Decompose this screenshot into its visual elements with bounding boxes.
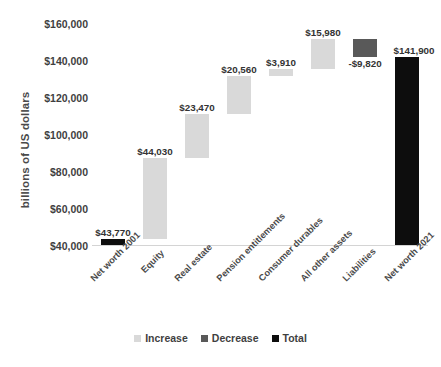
bar-equity[interactable] [143, 158, 167, 239]
bar-value-label: $20,560 [221, 64, 256, 75]
waterfall-chart: billions of US dollars $40,000$60,000$80… [0, 0, 441, 367]
x-tick-pension-entitlements: Pension entitlements [215, 248, 250, 283]
bar-real-estate[interactable] [185, 114, 209, 157]
x-tick-equity: Equity [131, 248, 166, 283]
bar-value-label: $3,910 [266, 57, 296, 68]
bar-value-label: $44,030 [137, 146, 172, 157]
y-tick-label: $120,000 [18, 92, 88, 104]
x-tick-real-estate: Real estate [173, 248, 208, 283]
bar-value-label: $43,770 [95, 227, 130, 238]
y-tick-label: $60,000 [18, 203, 88, 215]
legend-swatch-icon [201, 335, 208, 342]
bar-consumer-durables[interactable] [269, 69, 293, 76]
x-tick-consumer-durables: Consumer durables [257, 248, 292, 283]
y-tick-label: $40,000 [18, 240, 88, 252]
bar-net-worth-2021[interactable] [395, 57, 419, 246]
legend-label: Total [283, 332, 307, 344]
x-tick-liabilities: Liabilities [341, 248, 376, 283]
chart-legend: IncreaseDecreaseTotal [0, 332, 441, 344]
y-tick-label: $160,000 [18, 18, 88, 30]
x-tick-net-worth-2021: Net worth 2021 [383, 248, 418, 283]
bar-value-label: -$9,820 [348, 58, 381, 69]
y-tick-label: $140,000 [18, 55, 88, 67]
x-axis-labels: Net worth 2001EquityReal estatePension e… [92, 248, 428, 320]
y-axis-ticks: $40,000$60,000$80,000$100,000$120,000$14… [14, 24, 88, 246]
legend-swatch-icon [272, 335, 279, 342]
legend-item-total[interactable]: Total [272, 332, 307, 344]
bar-value-label: $23,470 [179, 102, 214, 113]
bar-value-label: $141,900 [394, 45, 435, 56]
legend-label: Increase [145, 332, 188, 344]
bar-pension-entitlements[interactable] [227, 76, 251, 114]
x-tick-net-worth-2001: Net worth 2001 [89, 248, 124, 283]
x-tick-all-other-assets: All other assets [299, 248, 334, 283]
y-tick-label: $100,000 [18, 129, 88, 141]
bar-all-other-assets[interactable] [311, 39, 335, 69]
legend-label: Decrease [212, 332, 259, 344]
legend-item-increase[interactable]: Increase [134, 332, 188, 344]
bar-liabilities[interactable] [353, 39, 377, 57]
y-tick-label: $80,000 [18, 166, 88, 178]
legend-swatch-icon [134, 335, 141, 342]
bar-value-label: $15,980 [305, 27, 340, 38]
plot-area: $43,770$44,030$23,470$20,560$3,910$15,98… [92, 24, 428, 246]
legend-item-decrease[interactable]: Decrease [201, 332, 259, 344]
